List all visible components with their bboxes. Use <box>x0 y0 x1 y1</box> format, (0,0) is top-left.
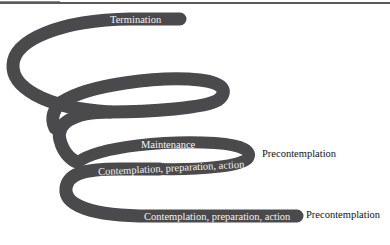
label-cpa-lower: Contemplation, preparation, action <box>144 211 291 222</box>
label-precontemplation-upper: Precontemplation <box>262 148 336 159</box>
label-termination: Termination <box>110 14 162 25</box>
label-precontemplation-lower: Precontemplation <box>306 209 380 220</box>
label-maintenance: Maintenance <box>141 139 196 150</box>
